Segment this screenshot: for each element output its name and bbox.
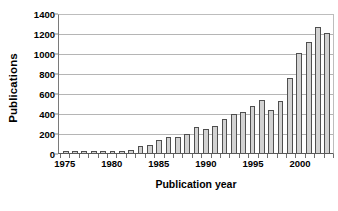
- bar: [306, 42, 312, 153]
- y-axis-tick-label: 600: [21, 90, 55, 99]
- bar: [268, 110, 274, 154]
- bar-slot: [295, 15, 304, 153]
- bar-slot: [229, 15, 238, 153]
- bar-slot: [304, 15, 313, 153]
- bar: [147, 145, 153, 153]
- x-axis-tick-label: 2000: [289, 158, 310, 170]
- bar-slot: [108, 15, 117, 153]
- bar: [184, 134, 190, 153]
- bar-slot: [313, 15, 322, 153]
- y-axis-tick-label: 200: [21, 130, 55, 139]
- y-axis-tick-label: 0: [21, 150, 55, 159]
- x-axis-title: Publication year: [58, 178, 334, 190]
- bar: [91, 151, 97, 153]
- bar-slot: [145, 15, 154, 153]
- bar: [212, 126, 218, 154]
- bar-slot: [182, 15, 191, 153]
- bar-slot: [98, 15, 107, 153]
- bar: [100, 151, 106, 153]
- bar-slot: [61, 15, 70, 153]
- bar: [156, 140, 162, 153]
- bar-slot: [248, 15, 257, 153]
- y-axis-tick-label: 1400: [21, 10, 55, 19]
- bar: [72, 151, 78, 153]
- bar-slot: [267, 15, 276, 153]
- bar: [138, 146, 144, 154]
- x-axis-tick-label: 1975: [54, 158, 75, 170]
- bar-slot: [89, 15, 98, 153]
- bar: [324, 33, 330, 153]
- y-axis-tick-label: 400: [21, 110, 55, 119]
- bar: [259, 100, 265, 153]
- y-axis-title-text: Publications: [7, 53, 19, 123]
- bar-slot: [239, 15, 248, 153]
- bar: [110, 151, 116, 153]
- bar: [250, 106, 256, 153]
- y-axis-tick-labels: 0200400600800100012001400: [24, 14, 58, 154]
- bar: [231, 114, 237, 153]
- bar-slot: [70, 15, 79, 153]
- bar-slot: [154, 15, 163, 153]
- x-axis-tick-label: 1995: [242, 158, 263, 170]
- bar: [315, 27, 321, 154]
- bar: [119, 151, 125, 153]
- bar-slot: [192, 15, 201, 153]
- bar-slot: [285, 15, 294, 153]
- bar-slot: [173, 15, 182, 153]
- bar: [222, 119, 228, 153]
- bar-slot: [201, 15, 210, 153]
- bar: [278, 101, 284, 154]
- bar-slot: [164, 15, 173, 153]
- bar-slot: [220, 15, 229, 153]
- bar: [194, 127, 200, 153]
- bar: [128, 150, 134, 154]
- bar-slot: [126, 15, 135, 153]
- x-axis-tick-label: 1980: [101, 158, 122, 170]
- bar: [175, 137, 181, 153]
- bar: [81, 151, 87, 153]
- y-axis-tick-label: 1000: [21, 50, 55, 59]
- bar: [287, 78, 293, 153]
- bar-series: [59, 15, 333, 153]
- publications-bar-chart: Publications 0200400600800100012001400 1…: [0, 0, 338, 211]
- x-axis-tick-label: 1990: [195, 158, 216, 170]
- bar-slot: [323, 15, 332, 153]
- bar: [296, 53, 302, 153]
- bar: [203, 129, 209, 153]
- x-axis-tick-label: 1985: [148, 158, 169, 170]
- x-axis-tick-labels: 197519801985199019952000: [58, 158, 334, 172]
- bar-slot: [136, 15, 145, 153]
- bar-slot: [80, 15, 89, 153]
- bar-slot: [211, 15, 220, 153]
- bar-slot: [257, 15, 266, 153]
- bar: [166, 137, 172, 153]
- bar: [240, 112, 246, 153]
- y-axis-tick-label: 1200: [21, 30, 55, 39]
- bar: [63, 151, 69, 154]
- bar-slot: [276, 15, 285, 153]
- plot-area: [58, 14, 334, 154]
- bar-slot: [117, 15, 126, 153]
- y-axis-tick-label: 800: [21, 70, 55, 79]
